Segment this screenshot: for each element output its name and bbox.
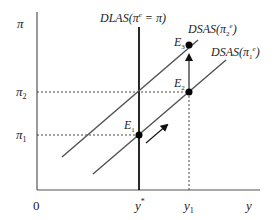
point-e1 (136, 132, 143, 139)
x-axis-label: y (244, 198, 252, 213)
dsas-pi2-line (62, 40, 198, 157)
pi1-label: π1 (16, 127, 27, 144)
origin-label: 0 (33, 198, 40, 213)
e2-label: E2 (173, 76, 185, 92)
dlas-label: DLAS(πe = π) (99, 11, 166, 25)
y-axis-label: π (17, 16, 24, 31)
e3-label: E3 (173, 35, 185, 51)
dsas-pi1-label: DSAS(π1e) (210, 45, 260, 61)
dsas-pi2-label: DSAS(π2e) (187, 22, 237, 38)
shift-arrow (146, 125, 167, 143)
point-e2 (186, 89, 193, 96)
pi2-label: π2 (16, 84, 27, 101)
dlas-dsas-diagram: π y 0 π2 π1 y* y1 DLAS(πe = π) DSAS(π2e)… (0, 0, 276, 220)
dsas-pi1-line (93, 60, 226, 174)
y-star-label: y* (133, 197, 145, 213)
y1-label: y1 (182, 198, 194, 215)
point-e3 (186, 42, 193, 49)
e1-label: E1 (123, 118, 135, 134)
